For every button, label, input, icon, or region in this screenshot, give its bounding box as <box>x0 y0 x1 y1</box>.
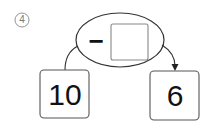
arrowhead-icon <box>172 64 179 71</box>
left-connector-line <box>65 46 78 70</box>
problem-number-digit: 4 <box>14 12 30 28</box>
right-arrow-line <box>162 45 175 66</box>
answer-box[interactable] <box>111 24 148 60</box>
operator-symbol: − <box>86 26 106 56</box>
start-value: 10 <box>40 71 90 119</box>
result-value: 6 <box>150 72 200 120</box>
